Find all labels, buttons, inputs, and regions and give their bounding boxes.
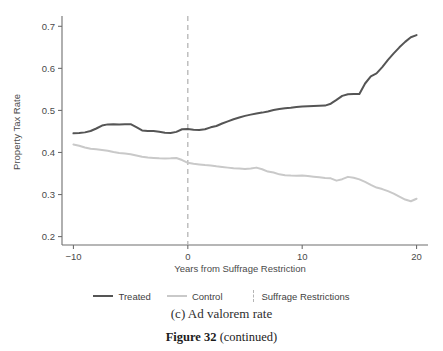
y-tick-label: 0.2 bbox=[42, 231, 55, 242]
series-line-control bbox=[73, 144, 416, 201]
chart-axes bbox=[58, 16, 428, 249]
y-axis-label: Property Tax Rate bbox=[11, 94, 22, 170]
legend-item-treated[interactable]: Treated bbox=[93, 291, 150, 302]
figure-caption: Figure 32 (continued) bbox=[0, 330, 443, 345]
chart-tick-labels: 0.20.30.40.50.60.7−1001020 bbox=[42, 21, 422, 262]
legend-label: Treated bbox=[118, 291, 150, 302]
legend-label: Control bbox=[192, 291, 223, 302]
legend-dashed-line-icon bbox=[253, 290, 257, 302]
y-tick-label: 0.3 bbox=[42, 189, 55, 200]
series-line-treated bbox=[73, 35, 416, 133]
chart-plot-area: 0.20.30.40.50.60.7−1001020 Property Tax … bbox=[0, 0, 443, 290]
x-axis-label: Years from Suffrage Restriction bbox=[174, 263, 305, 274]
x-tick-label: 10 bbox=[297, 251, 308, 262]
chart-series-group bbox=[73, 35, 416, 201]
x-tick-label: 0 bbox=[185, 251, 190, 262]
legend-solid-line-icon bbox=[167, 295, 187, 297]
legend-item-suffrage-restrictions[interactable]: Suffrage Restrictions bbox=[253, 290, 350, 302]
y-tick-label: 0.5 bbox=[42, 105, 55, 116]
chart-legend: TreatedControlSuffrage Restrictions bbox=[0, 286, 443, 306]
figure-continued-note: (continued) bbox=[220, 330, 278, 344]
y-tick-label: 0.6 bbox=[42, 63, 55, 74]
legend-label: Suffrage Restrictions bbox=[262, 291, 350, 302]
legend-item-control[interactable]: Control bbox=[167, 291, 223, 302]
y-tick-label: 0.4 bbox=[42, 147, 55, 158]
figure-container: 0.20.30.40.50.60.7−1001020 Property Tax … bbox=[0, 0, 443, 351]
x-tick-label: 20 bbox=[411, 251, 422, 262]
legend-solid-line-icon bbox=[93, 295, 113, 297]
line-chart: 0.20.30.40.50.60.7−1001020 Property Tax … bbox=[0, 0, 443, 290]
subfigure-caption: (c) Ad valorem rate bbox=[0, 306, 443, 322]
x-tick-label: −10 bbox=[65, 251, 81, 262]
figure-number: Figure 32 bbox=[166, 330, 217, 344]
y-tick-label: 0.7 bbox=[42, 21, 55, 32]
